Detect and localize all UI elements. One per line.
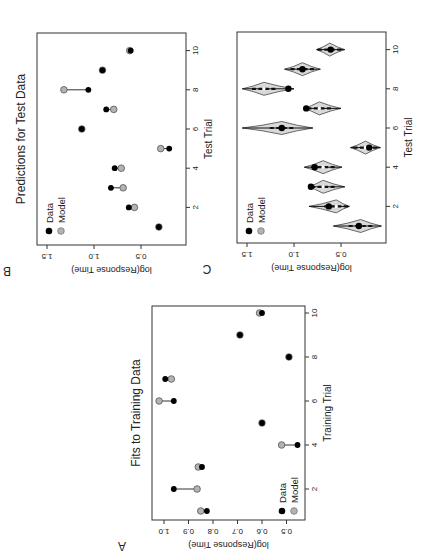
panel-label: B xyxy=(3,264,11,278)
model-point xyxy=(168,376,175,383)
x-tick-label: 10 xyxy=(191,46,200,55)
data-point-pair xyxy=(61,87,92,94)
violin xyxy=(317,43,345,56)
y-tick-label: 0.7 xyxy=(231,527,243,536)
x-tick-label: 10 xyxy=(391,45,400,54)
data-point xyxy=(112,165,118,171)
data-point-pair xyxy=(197,508,209,515)
data-point xyxy=(128,48,134,54)
data-point xyxy=(286,354,292,360)
model-median xyxy=(318,107,321,110)
violin xyxy=(308,180,345,193)
data-point-pair xyxy=(195,464,205,471)
legend-model-label: Model xyxy=(256,197,267,223)
legend-data-marker xyxy=(46,228,53,235)
data-point xyxy=(166,146,172,152)
data-point-pair xyxy=(126,204,138,211)
data-point-pair xyxy=(278,442,300,449)
x-tick-label: 8 xyxy=(310,354,319,359)
data-point-pair xyxy=(157,145,172,152)
panel-label: C xyxy=(202,262,211,276)
data-point xyxy=(199,464,205,470)
y-tick-label: 0.9 xyxy=(182,527,194,536)
data-point xyxy=(156,224,162,230)
violin xyxy=(242,122,312,135)
model-point xyxy=(157,145,164,152)
figure-canvas: 0.50.60.70.80.91.0log(Response Time)ADat… xyxy=(0,0,437,557)
model-point xyxy=(110,106,117,113)
x-tick-label: 8 xyxy=(191,87,200,92)
data-point xyxy=(126,205,132,211)
x-axis-label: Test Trial xyxy=(403,117,414,157)
data-point-pair xyxy=(108,185,126,192)
panel-c: 0.51.01.5log(Response Time)CDataModel xyxy=(202,32,390,276)
x-tick-label: 4 xyxy=(191,165,200,170)
data-point-pair xyxy=(237,332,244,339)
y-axis-label: log(Response Time) xyxy=(271,263,352,273)
data-point xyxy=(311,164,317,170)
data-point-pair xyxy=(126,47,133,54)
data-point xyxy=(356,223,362,229)
legend-data-marker xyxy=(279,508,286,515)
panel-label: A xyxy=(118,539,126,553)
data-point xyxy=(326,203,332,209)
x-tick-label: 10 xyxy=(310,308,319,317)
data-point-pair xyxy=(162,376,174,383)
data-point-pair xyxy=(156,398,177,405)
model-point xyxy=(131,204,138,211)
data-point xyxy=(162,376,168,382)
data-point xyxy=(303,105,309,111)
panel-a: 0.50.60.70.80.91.0log(Response Time)ADat… xyxy=(118,306,309,553)
data-point xyxy=(327,46,333,52)
y-tick-label: 0.5 xyxy=(335,250,347,259)
model-point xyxy=(120,185,127,192)
data-point-pair xyxy=(156,224,163,231)
x-tick-label: 6 xyxy=(310,398,319,403)
y-tick-label: 0.6 xyxy=(256,527,268,536)
y-tick-label: 1.0 xyxy=(88,252,100,261)
x-tick-label: 6 xyxy=(191,126,200,131)
data-point xyxy=(279,125,285,131)
model-point xyxy=(118,165,125,172)
x-axis-label: Test Trial xyxy=(203,119,214,159)
data-point xyxy=(308,184,314,190)
violin xyxy=(285,63,321,76)
data-point-pair xyxy=(171,486,200,493)
data-point-pair xyxy=(286,354,293,361)
legend-data-label: Data xyxy=(244,202,255,223)
model-median xyxy=(335,205,338,208)
model-median xyxy=(262,87,265,90)
y-tick-label: 0.8 xyxy=(207,527,219,536)
x-tick-label: 2 xyxy=(191,205,200,210)
data-point-pair xyxy=(112,165,125,172)
violin xyxy=(309,200,349,213)
violin xyxy=(303,102,341,115)
data-point xyxy=(171,486,177,492)
x-tick-label: 8 xyxy=(391,86,400,91)
data-point xyxy=(171,398,177,404)
data-point-pair xyxy=(256,310,265,317)
legend-model-marker xyxy=(58,228,65,235)
model-point xyxy=(197,508,204,515)
legend-model-label: Model xyxy=(289,477,300,503)
legend-model-marker xyxy=(291,508,298,515)
legend-model-label: Model xyxy=(56,197,67,223)
y-tick-label: 1.5 xyxy=(41,252,53,261)
model-point xyxy=(156,398,163,405)
data-point xyxy=(103,107,109,113)
y-tick-label: 1.0 xyxy=(158,527,170,536)
data-point xyxy=(85,87,91,93)
y-axis-label: log(Response Time) xyxy=(188,540,269,550)
data-point xyxy=(285,86,291,92)
data-point xyxy=(366,144,372,150)
data-point xyxy=(100,67,106,73)
model-point xyxy=(278,442,285,449)
legend-data-label: Data xyxy=(44,202,55,223)
violin xyxy=(350,141,380,154)
data-point xyxy=(79,126,85,132)
panel-b: 0.51.01.5log(Response Time)BDataModel xyxy=(3,33,190,278)
x-tick-label: 4 xyxy=(391,164,400,169)
violin xyxy=(242,82,294,95)
data-point-pair xyxy=(259,420,266,427)
x-tick-label: 6 xyxy=(391,125,400,130)
